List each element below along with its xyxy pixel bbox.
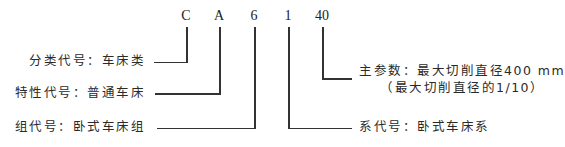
connector-c-vertical [186,27,188,63]
connector-40-vertical [322,27,324,79]
label-classification: 分类代号：车床类 [29,53,145,69]
connector-1-horizontal [288,128,352,130]
label-main-parameter: 主参数：最大切削直径400 mm [359,63,565,79]
connector-6-horizontal [157,128,256,130]
code-letter-c: C [181,8,190,24]
label-group: 组代号：卧式车床组 [15,119,146,135]
label-characteristic: 特性代号：普通车床 [15,85,146,101]
label-series: 系代号：卧式车床系 [359,119,490,135]
code-letter-a: A [214,8,224,24]
connector-a-vertical [219,27,221,94]
connector-a-horizontal [155,93,221,95]
connector-40-horizontal [322,78,352,80]
code-digit-1: 1 [285,8,292,24]
connector-1-vertical [288,27,290,129]
label-main-parameter-note: （最大切削直径的1/10） [380,80,545,96]
connector-c-horizontal [154,62,188,64]
connector-6-vertical [254,27,256,129]
code-digits-40: 40 [315,8,329,24]
code-digit-6: 6 [251,8,258,24]
